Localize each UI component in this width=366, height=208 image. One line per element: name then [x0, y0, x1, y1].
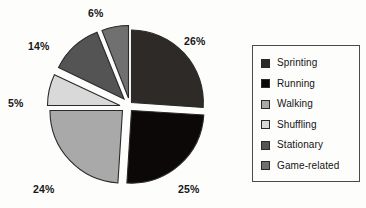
legend-swatch-icon-sprinting	[261, 59, 270, 68]
legend-label-shuffling: Shuffling	[277, 120, 317, 130]
slice-label-running: 25%	[178, 184, 200, 195]
legend-swatch-icon-game-related	[261, 161, 270, 170]
pie-slices-group	[0, 0, 250, 208]
legend-swatch-icon-shuffling	[261, 120, 270, 129]
slice-label-shuffling: 5%	[8, 98, 24, 109]
legend-label-walking: Walking	[277, 99, 313, 109]
legend-label-stationary: Stationary	[277, 140, 323, 150]
legend-item-shuffling[interactable]: Shuffling	[261, 115, 359, 136]
slice-label-game-related: 6%	[88, 8, 104, 19]
pie-slice-walking[interactable]	[50, 111, 123, 184]
pie-slice-running[interactable]	[127, 111, 204, 184]
legend-item-walking[interactable]: Walking	[261, 94, 359, 115]
legend-label-sprinting: Sprinting	[277, 58, 317, 68]
legend-label-game-related: Game-related	[277, 161, 339, 171]
legend-swatch-icon-stationary	[261, 141, 270, 150]
legend-swatch-icon-walking	[261, 100, 270, 109]
legend-item-game-related[interactable]: Game-related	[261, 156, 359, 177]
legend-swatch-icon-running	[261, 79, 270, 88]
legend-item-sprinting[interactable]: Sprinting	[261, 53, 359, 74]
legend-item-running[interactable]: Running	[261, 74, 359, 95]
slice-label-stationary: 14%	[28, 41, 50, 52]
chart-legend: Sprinting Running Walking Shuffling Stat…	[252, 45, 360, 182]
slice-label-sprinting: 26%	[184, 36, 206, 47]
slice-label-walking: 24%	[33, 184, 55, 195]
pie-chart-figure: 6% 14% 5% 24% 25% 26% Sprinting Running …	[0, 0, 366, 208]
legend-label-running: Running	[277, 79, 315, 89]
legend-item-stationary[interactable]: Stationary	[261, 135, 359, 156]
pie-chart-plot-area: 6% 14% 5% 24% 25% 26%	[0, 0, 250, 208]
